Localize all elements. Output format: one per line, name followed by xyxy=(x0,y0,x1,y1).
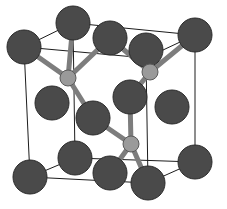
anion-atom: back-top-left corner xyxy=(56,6,90,40)
cell-edge xyxy=(30,177,148,183)
anion-atom: left-face atom xyxy=(35,86,69,120)
atoms-group: back-top-left cornerback-top-right corne… xyxy=(7,6,212,200)
anion-atom: front-bottom-left corner xyxy=(13,160,47,194)
anion-atom: back-top-right corner xyxy=(178,18,212,52)
anion-atom: interior-front atom xyxy=(76,101,110,135)
anion-atom: bottom-face atom xyxy=(58,141,92,175)
cell-edge xyxy=(24,47,30,177)
cation-atom: upper-right tetrahedral site xyxy=(142,64,158,80)
cell-edge xyxy=(73,23,195,35)
anion-atom: right-face atom xyxy=(155,90,189,124)
anion-atom: front-top-left corner xyxy=(7,30,41,64)
cation-atom: lower-center tetrahedral site xyxy=(123,136,139,152)
anion-atom: front-top-right area xyxy=(129,33,163,67)
cation-atom: upper-left tetrahedral site xyxy=(60,70,76,86)
anion-atom: back-bottom-right corner xyxy=(178,145,212,179)
anion-atom: interior-back atom xyxy=(113,80,147,114)
anion-atom: front-bottom-right corner xyxy=(131,166,165,200)
lattice-canvas: back-top-left cornerback-top-right corne… xyxy=(0,0,227,209)
crystal-lattice-figure: back-top-left cornerback-top-right corne… xyxy=(0,0,227,209)
anion-atom: front-bottom atom xyxy=(93,156,127,190)
anion-atom: top-face atom xyxy=(93,21,127,55)
